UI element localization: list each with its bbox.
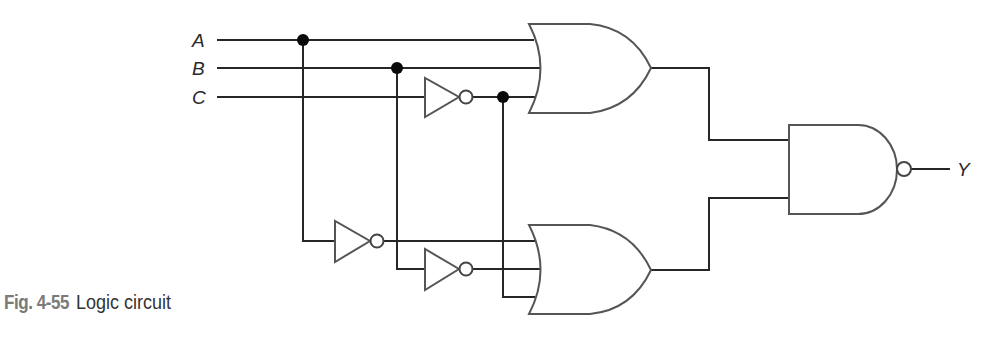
- junction-dot-b: [391, 62, 403, 74]
- wire-c: [217, 97, 535, 297]
- junction-dot-a: [297, 34, 309, 46]
- junction-dot-c-inverted: [497, 91, 509, 103]
- figure-title: Logic circuit: [76, 291, 171, 314]
- figure-caption: Fig. 4-55 Logic circuit: [4, 291, 182, 314]
- or-gate-bottom: [529, 225, 651, 314]
- wire-or-top-out: [651, 68, 790, 140]
- logic-circuit-diagram: A B C: [0, 0, 1008, 340]
- or-gate-top: [529, 24, 651, 113]
- figure-number: Fig. 4-55: [4, 291, 69, 314]
- not-gate-a: [335, 221, 384, 262]
- wire-a: [217, 40, 534, 241]
- not-gate-b: [425, 249, 473, 290]
- input-label-b: B: [192, 58, 205, 79]
- input-label-c: C: [192, 87, 206, 108]
- nand-gate-output: [789, 125, 911, 214]
- output-label-y: Y: [957, 159, 971, 180]
- not-gate-c: [425, 78, 473, 117]
- input-label-a: A: [191, 30, 205, 51]
- wire-or-bottom-out: [651, 198, 790, 270]
